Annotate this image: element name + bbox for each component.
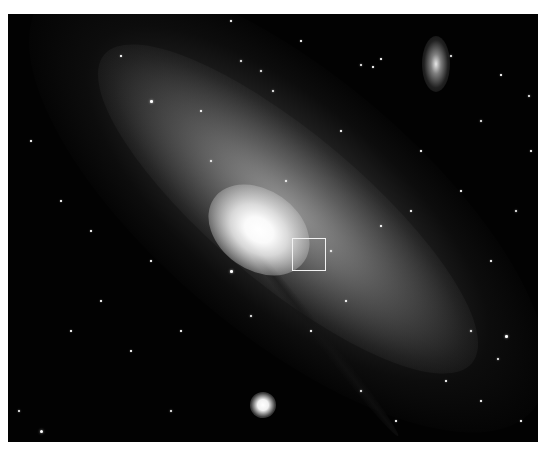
star (130, 350, 132, 352)
star (310, 330, 312, 332)
star (150, 100, 153, 103)
star (240, 60, 242, 62)
star (490, 260, 492, 262)
star (372, 66, 374, 68)
star (170, 410, 172, 412)
star (230, 270, 233, 273)
star (528, 95, 530, 97)
star (420, 150, 422, 152)
star (120, 55, 122, 57)
star (90, 230, 92, 232)
star (460, 190, 462, 192)
star (497, 358, 499, 360)
satellite-galaxy-upper-right (422, 36, 450, 92)
star (500, 74, 502, 76)
star (505, 335, 508, 338)
star (395, 420, 397, 422)
star (230, 20, 232, 22)
star (70, 330, 72, 332)
star (210, 160, 212, 162)
star (30, 140, 32, 142)
galaxy-image (8, 14, 538, 442)
star (330, 250, 332, 252)
star (100, 300, 102, 302)
selection-box[interactable] (292, 238, 326, 271)
star (360, 390, 362, 392)
star (250, 315, 252, 317)
star (515, 210, 517, 212)
satellite-galaxy-lower (250, 392, 276, 418)
star (360, 64, 362, 66)
star (380, 58, 382, 60)
star (410, 210, 412, 212)
star (480, 400, 482, 402)
star (200, 110, 202, 112)
star (530, 150, 532, 152)
star (445, 380, 447, 382)
star (260, 70, 262, 72)
star (180, 330, 182, 332)
star (345, 300, 347, 302)
star (480, 120, 482, 122)
star (300, 40, 302, 42)
star (520, 420, 522, 422)
star (150, 260, 152, 262)
star (450, 55, 452, 57)
star (470, 330, 472, 332)
star (40, 430, 43, 433)
star (60, 200, 62, 202)
star (285, 180, 287, 182)
star (340, 130, 342, 132)
star (272, 90, 274, 92)
star (380, 225, 382, 227)
star (18, 410, 20, 412)
